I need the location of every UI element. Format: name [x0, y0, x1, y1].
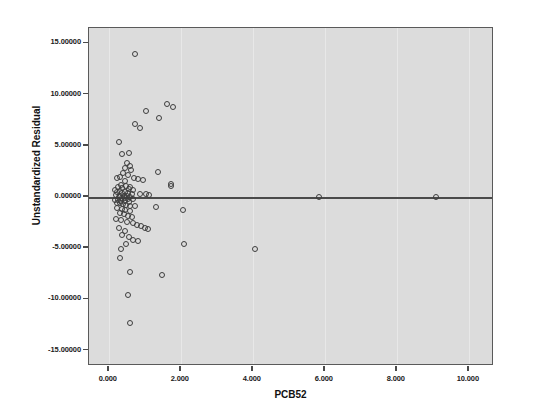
y-tick-label-wrap-2: 5.00000 [0, 140, 81, 150]
y-tick-label: 15.00000 [51, 37, 81, 46]
data-point [125, 292, 131, 298]
x-tick-mark-5 [467, 366, 469, 371]
data-point [140, 177, 146, 183]
x-axis-title: PCB52 [88, 389, 493, 400]
data-point [127, 320, 133, 326]
gridline-x-2 [253, 28, 254, 364]
data-point [153, 204, 159, 210]
x-tick-label-wrap-5: 10.000 [438, 374, 498, 385]
gridline-x-5 [469, 28, 470, 364]
y-tick-label: 10.00000 [51, 89, 81, 98]
x-tick-label-wrap-3: 6.000 [294, 374, 354, 385]
data-point [180, 207, 186, 213]
scatter-plot-figure: Unstandardized Residual 15.0000010.00000… [0, 0, 548, 415]
data-point [159, 272, 165, 278]
y-tick-label-wrap-1: 10.00000 [0, 89, 81, 99]
data-point [181, 241, 187, 247]
data-point [156, 115, 162, 121]
data-point [433, 194, 439, 200]
data-point [119, 151, 125, 157]
data-point [117, 255, 123, 261]
data-point [123, 241, 129, 247]
x-tick-label: 0.000 [78, 374, 138, 383]
y-tick-label: 0.00000 [55, 191, 81, 200]
data-point [119, 232, 125, 238]
x-tick-label-wrap-1: 2.000 [150, 374, 210, 385]
x-tick-mark-4 [395, 366, 397, 371]
data-point [137, 125, 143, 131]
gridline-x-0 [109, 28, 110, 364]
data-point [135, 238, 141, 244]
x-tick-mark-1 [179, 366, 181, 371]
data-point [125, 172, 131, 178]
data-point [316, 194, 322, 200]
data-point [116, 225, 122, 231]
data-point [170, 104, 176, 110]
gridline-x-1 [181, 28, 182, 364]
data-point [146, 192, 152, 198]
gridline-x-4 [397, 28, 398, 364]
data-point [132, 51, 138, 57]
x-tick-label-wrap-0: 0.000 [78, 374, 138, 385]
x-tick-mark-2 [251, 366, 253, 371]
data-point [118, 246, 124, 252]
data-point [126, 150, 132, 156]
data-point [168, 183, 174, 189]
x-tick-label-wrap-4: 8.000 [366, 374, 426, 385]
x-tick-label: 10.000 [438, 374, 498, 383]
data-point [132, 203, 138, 209]
y-tick-label-wrap-0: 15.00000 [0, 37, 81, 47]
data-point [252, 246, 258, 252]
y-axis-title: Unstandardized Residual [31, 86, 42, 246]
y-tick-label: -15.00000 [48, 345, 81, 354]
plot-data-area [88, 27, 493, 365]
x-tick-mark-3 [323, 366, 325, 371]
x-tick-label-wrap-2: 4.000 [222, 374, 282, 385]
y-tick-label-wrap-6: -15.00000 [0, 345, 81, 355]
gridline-x-3 [325, 28, 326, 364]
x-tick-label: 8.000 [366, 374, 426, 383]
y-tick-label: 5.00000 [55, 140, 81, 149]
y-tick-label-wrap-5: -10.00000 [0, 293, 81, 303]
data-point [145, 226, 151, 232]
x-tick-mark-0 [107, 366, 109, 371]
y-tick-label: -10.00000 [48, 293, 81, 302]
data-point [155, 169, 161, 175]
x-tick-label: 2.000 [150, 374, 210, 383]
data-point [116, 139, 122, 145]
data-point [143, 108, 149, 114]
y-tick-label-wrap-4: -5.00000 [0, 242, 81, 252]
x-tick-label: 4.000 [222, 374, 282, 383]
data-point [124, 219, 130, 225]
data-point [129, 214, 135, 220]
y-tick-label-wrap-3: 0.00000 [0, 191, 81, 201]
x-tick-label: 6.000 [294, 374, 354, 383]
data-point [127, 269, 133, 275]
y-tick-label: -5.00000 [52, 242, 81, 251]
data-point [114, 175, 120, 181]
